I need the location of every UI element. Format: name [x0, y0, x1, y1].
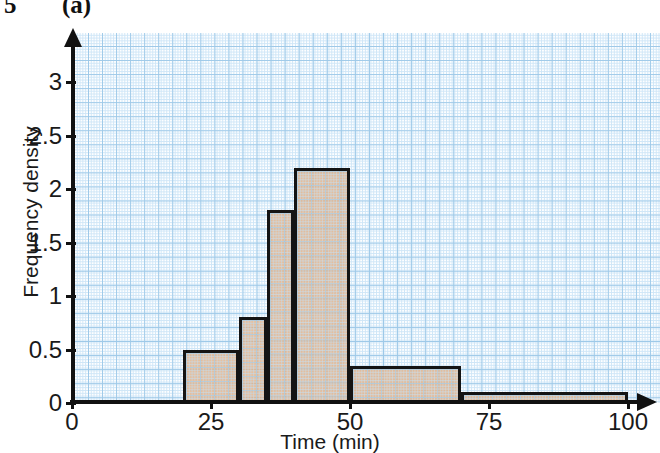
histogram-chart: 0255075100 00.511.522.53 Time (min) Freq… [0, 0, 660, 453]
y-axis-tick [66, 349, 76, 352]
histogram-bar [350, 366, 461, 403]
x-axis-line [70, 400, 640, 404]
y-axis-tick-label: 0 [0, 389, 62, 417]
x-axis-title: Time (min) [0, 430, 660, 453]
y-axis-title: Frequency density [19, 42, 43, 382]
histogram-bar [267, 210, 295, 403]
y-axis-tick [66, 135, 76, 138]
y-axis-tick [66, 295, 76, 298]
histogram-bar [183, 350, 239, 404]
y-axis-tick [66, 188, 76, 191]
histogram-bars [75, 33, 660, 403]
y-axis-arrow-icon [64, 28, 82, 47]
histogram-bar [294, 168, 350, 403]
y-axis-tick [66, 242, 76, 245]
y-axis-tick [66, 81, 76, 84]
y-axis-tick [66, 402, 76, 405]
histogram-bar [239, 317, 267, 403]
